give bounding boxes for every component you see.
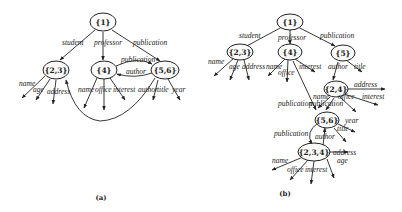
edge-label: title (337, 124, 349, 133)
node-label: {4} (283, 48, 298, 57)
edge-label: name (272, 156, 289, 165)
edge-label: author (126, 67, 146, 76)
edge-label: address (242, 62, 265, 71)
caption-b: (b) (279, 189, 291, 198)
edge-label: name (208, 57, 225, 66)
edge-label: title (157, 85, 169, 94)
edge-label: address (354, 80, 377, 89)
node-label: {5,6} (316, 116, 339, 125)
edge-label: author (138, 85, 158, 94)
edge-label: student (239, 31, 262, 40)
edge-label: interest (113, 85, 136, 94)
edge-label: student (62, 38, 85, 47)
edge-label: address (333, 148, 356, 157)
edge-label: interest (362, 92, 385, 101)
edge-label: age (33, 85, 45, 94)
edge-label: professor (277, 33, 306, 42)
edge-age-234 (327, 159, 334, 178)
edge-label: author (315, 132, 335, 141)
edge-label: publication (120, 55, 155, 64)
edge-label: title (354, 62, 366, 71)
figure-a: {1} {2,3} {4} {5,6} student professor pu… (19, 13, 185, 202)
node-label: {2,3} (45, 66, 68, 75)
edge-label: publication (132, 38, 167, 47)
node-label: {2,3,4} (299, 148, 330, 157)
node-label: {4} (97, 66, 112, 75)
figure-b: {1} {2,3} {4} {5} {2,4} {5,6} {2,3,4} st… (208, 14, 385, 198)
edge-label: interest (299, 62, 322, 71)
node-label: {2,3} (229, 48, 252, 57)
edge-label: age (229, 62, 241, 71)
edge-label: publication (308, 99, 343, 108)
node-label: {5,6} (154, 66, 177, 75)
node-label: {5} (336, 49, 351, 58)
edge-label: publication (277, 99, 312, 108)
edge-label: office (287, 165, 304, 174)
edge-label: publication (273, 129, 308, 138)
edge-label: office (95, 85, 112, 94)
edge-label: interest (305, 165, 328, 174)
edge-label: office (278, 68, 295, 77)
edge-label: author (328, 62, 348, 71)
edge-label: year (171, 85, 185, 94)
node-label: {1} (96, 18, 111, 27)
edge-label: address (47, 87, 70, 96)
node-label: {1} (283, 18, 298, 27)
edge-label: professor (93, 38, 122, 47)
edge-label: name (78, 85, 95, 94)
caption-a: (a) (95, 193, 106, 202)
edge-label: age (337, 156, 349, 165)
schema-graph-figure: {1} {2,3} {4} {5,6} student professor pu… (0, 0, 402, 212)
edge-label: publication (319, 31, 354, 40)
